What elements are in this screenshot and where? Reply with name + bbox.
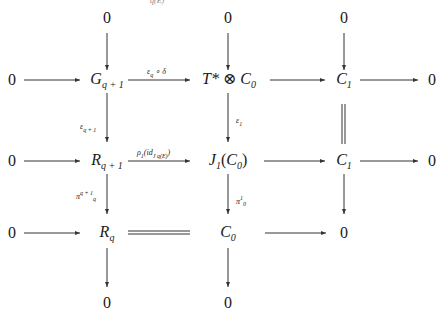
node-zero-R-left: 0 bbox=[8, 153, 16, 169]
R-sub: q + 1 bbox=[101, 160, 123, 171]
commutative-diagram: q(E) bbox=[0, 0, 439, 316]
node-J1-C0: J1(C0) bbox=[209, 152, 247, 171]
node-G-q1: Gq + 1 bbox=[90, 71, 123, 90]
node-zero-G-left: 0 bbox=[8, 72, 16, 88]
Tstar: T* bbox=[202, 70, 219, 87]
node-R-q: Rq bbox=[100, 224, 115, 243]
node-zero-Rq-right: 0 bbox=[340, 225, 348, 241]
otimes: ⊗ bbox=[223, 70, 236, 87]
node-C0: C0 bbox=[220, 224, 236, 243]
node-C1-top: C1 bbox=[336, 71, 352, 90]
label-eps-q1: εq + 1 bbox=[80, 123, 96, 133]
C-sub: 0 bbox=[251, 79, 256, 90]
G-sub: q + 1 bbox=[102, 79, 124, 90]
node-Tstar-otimes-C0: T* ⊗ C0 bbox=[202, 71, 256, 90]
node-R-q1: Rq + 1 bbox=[91, 152, 123, 171]
label-rho1: ρ1(idJ q(E)) bbox=[137, 149, 170, 159]
node-zero-R-right: 0 bbox=[428, 153, 436, 169]
node-zero-Rq-left: 0 bbox=[8, 225, 16, 241]
node-top-zero-1: 0 bbox=[103, 10, 111, 26]
C: C bbox=[336, 70, 347, 87]
node-bottom-zero-2: 0 bbox=[224, 295, 232, 311]
node-top-zero-3: 0 bbox=[340, 10, 348, 26]
node-zero-G-right: 0 bbox=[428, 72, 436, 88]
C-sub: 1 bbox=[347, 79, 352, 90]
label-eps-q-delta: εq ∘ δ bbox=[147, 68, 166, 78]
R-base: R bbox=[91, 151, 101, 168]
label-eps1: ε1 bbox=[236, 117, 242, 127]
G-base: G bbox=[90, 70, 102, 87]
label-pi-q1-q: πq + 1q bbox=[76, 190, 96, 202]
node-bottom-zero-1: 0 bbox=[103, 295, 111, 311]
C: C bbox=[240, 70, 251, 87]
node-top-zero-2: 0 bbox=[224, 10, 232, 26]
label-pi-1-0: π10 bbox=[236, 195, 246, 207]
node-C1-mid: C1 bbox=[336, 152, 352, 171]
